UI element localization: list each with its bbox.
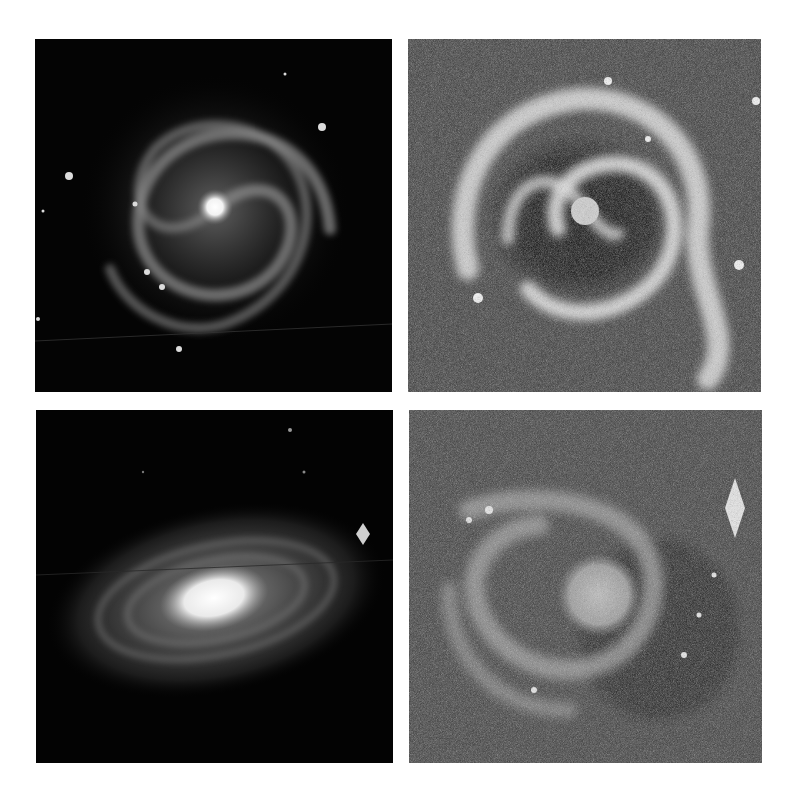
galaxy-image-top-left [35,39,392,392]
galaxy-image-bottom-right [409,410,762,763]
spiral-galaxy-graphic [35,39,392,392]
galaxy-image-bottom-left [36,410,393,763]
inclined-spiral-graphic [36,410,393,763]
grand-design-spiral-graphic [408,39,761,392]
knotty-spiral-graphic [409,410,762,763]
galaxy-image-top-right [408,39,761,392]
